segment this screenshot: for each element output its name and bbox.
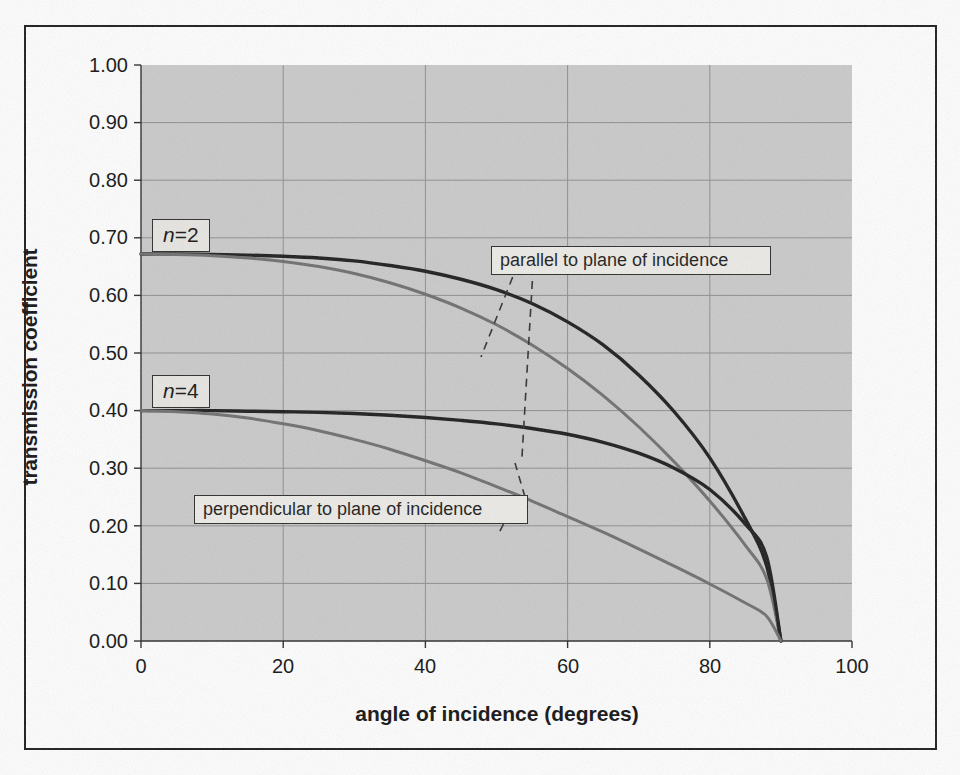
x-tick-label: 40	[390, 655, 460, 678]
x-axis-title: angle of incidence (degrees)	[142, 702, 852, 726]
x-tick-label: 100	[817, 655, 887, 678]
x-tick-label: 80	[675, 655, 745, 678]
x-tick-label: 60	[533, 655, 603, 678]
y-axis-title: transmission coefficient	[18, 217, 42, 517]
annotation-n2-rest: =2	[175, 223, 199, 246]
y-tick-label: 0.10	[58, 572, 128, 595]
x-tick-label: 20	[248, 655, 318, 678]
x-tick-label: 0	[106, 655, 176, 678]
annotation-n4: n=4	[152, 375, 210, 408]
annotation-n2-italic: n	[163, 223, 175, 246]
y-tick-label: 0.80	[58, 169, 128, 192]
figure-canvas: 1.00 0.90 0.80 0.70 0.60 0.50 0.40 0.30 …	[0, 0, 960, 775]
y-tick-marks	[134, 65, 141, 641]
annotation-n4-italic: n	[163, 379, 175, 402]
y-tick-label: 0.40	[58, 399, 128, 422]
y-tick-label: 1.00	[58, 54, 128, 77]
chart-frame: 1.00 0.90 0.80 0.70 0.60 0.50 0.40 0.30 …	[24, 25, 937, 750]
annotation-n4-rest: =4	[175, 379, 199, 402]
y-tick-label: 0.60	[58, 284, 128, 307]
y-tick-label: 0.70	[58, 226, 128, 249]
y-tick-label: 0.30	[58, 457, 128, 480]
annotation-n2: n=2	[152, 219, 210, 252]
x-tick-marks	[141, 641, 852, 648]
y-tick-label: 0.00	[58, 630, 128, 653]
y-tick-label: 0.20	[58, 515, 128, 538]
y-tick-label: 0.90	[58, 111, 128, 134]
y-tick-label: 0.50	[58, 342, 128, 365]
annotation-perpendicular: perpendicular to plane of incidence	[194, 495, 528, 524]
annotation-parallel: parallel to plane of incidence	[491, 246, 771, 275]
